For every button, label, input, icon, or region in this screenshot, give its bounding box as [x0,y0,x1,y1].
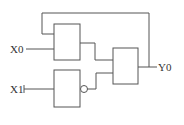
gate-2 [54,70,80,107]
gate-3 [113,48,138,84]
gate2-output-wire [88,73,114,89]
gate-1 [54,24,80,60]
gate1-output-wire [80,43,113,60]
y0-label: Y0 [158,61,172,73]
x1-label: X1 [10,83,23,95]
inverter-bubble [81,86,88,93]
x0-label: X0 [10,43,24,55]
logic-diagram: X0 X1 Y0 [0,0,184,125]
